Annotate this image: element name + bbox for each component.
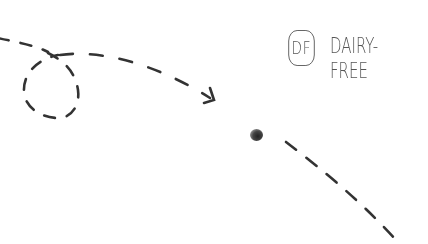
illustration-canvas: DF DAIRY-FREE: [0, 0, 428, 244]
badge-label: DAIRY-FREE: [330, 33, 397, 83]
ink-dot-icon: [250, 129, 263, 141]
badge-abbreviation: DF: [292, 38, 312, 58]
dairy-free-badge-icon: DF: [288, 30, 314, 66]
